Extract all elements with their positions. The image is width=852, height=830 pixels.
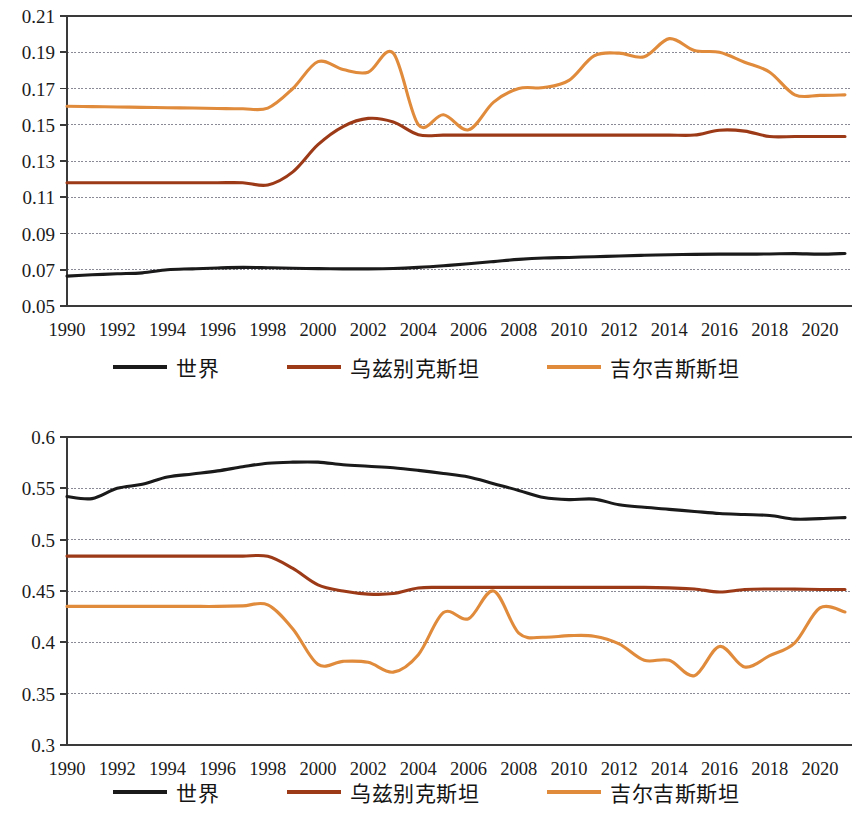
x-tick-label: 1998 xyxy=(249,759,286,775)
x-tick-label: 2002 xyxy=(350,759,387,775)
legend-swatch-kyrgyzstan xyxy=(547,365,601,369)
legend-swatch-uzbekistan xyxy=(287,365,341,369)
x-tick-label: 2008 xyxy=(500,320,537,340)
x-tick-label: 1994 xyxy=(149,759,186,775)
legend-label-world: 世界 xyxy=(176,777,219,807)
legend-label-uzbekistan: 乌兹别克斯坦 xyxy=(350,777,479,807)
y-tick-label: 0.21 xyxy=(22,6,55,27)
x-tick-label: 2018 xyxy=(751,320,788,340)
y-tick-label: 0.13 xyxy=(22,151,55,172)
y-tick-label: 0.55 xyxy=(22,478,55,499)
legend-label-world: 世界 xyxy=(176,352,219,382)
chart-bottom-ytick-labels: 0.30.350.40.450.50.550.6 xyxy=(22,427,56,756)
chart-top-legend: 世界 乌兹别克斯坦 吉尔吉斯斯坦 xyxy=(0,352,852,382)
x-tick-label: 2004 xyxy=(400,320,437,340)
legend-label-uzbekistan: 乌兹别克斯坦 xyxy=(350,352,479,382)
series-line xyxy=(67,253,845,276)
legend-item-world[interactable]: 世界 xyxy=(113,777,219,807)
chart-bottom-legend: 世界 乌兹别克斯坦 吉尔吉斯斯坦 xyxy=(0,777,852,807)
chart-bottom-xtick-labels: 1990199219941996199820002002200420062008… xyxy=(49,759,839,775)
x-tick-label: 2014 xyxy=(651,320,688,340)
x-tick-label: 1992 xyxy=(99,759,136,775)
x-tick-label: 2012 xyxy=(601,759,638,775)
y-tick-label: 0.5 xyxy=(31,530,55,551)
y-tick-label: 0.07 xyxy=(22,260,55,281)
y-tick-label: 0.45 xyxy=(22,581,55,602)
y-tick-label: 0.05 xyxy=(22,296,55,317)
chart-bottom: 0.30.350.40.450.50.550.6 199019921994199… xyxy=(0,415,852,830)
x-tick-label: 2008 xyxy=(500,759,537,775)
series-line xyxy=(67,555,845,594)
chart-top: 0.050.070.090.110.130.150.170.190.21 199… xyxy=(0,0,852,415)
x-tick-label: 2000 xyxy=(299,759,336,775)
legend-label-kyrgyzstan: 吉尔吉斯斯坦 xyxy=(610,352,739,382)
x-tick-label: 1992 xyxy=(99,320,136,340)
x-tick-label: 1998 xyxy=(249,320,286,340)
x-tick-label: 2004 xyxy=(400,759,437,775)
x-tick-label: 2010 xyxy=(550,320,587,340)
legend-swatch-uzbekistan xyxy=(287,790,341,794)
legend-swatch-world xyxy=(113,365,167,369)
x-tick-label: 2018 xyxy=(751,759,788,775)
legend-swatch-world xyxy=(113,790,167,794)
chart-top-gridlines xyxy=(67,16,852,270)
x-tick-label: 2010 xyxy=(550,759,587,775)
x-tick-label: 2016 xyxy=(701,759,738,775)
x-tick-label: 2002 xyxy=(350,320,387,340)
chart-top-series xyxy=(67,39,845,277)
y-tick-label: 0.35 xyxy=(22,684,55,705)
y-tick-label: 0.09 xyxy=(22,224,55,245)
x-tick-label: 2000 xyxy=(299,320,336,340)
x-tick-label: 2016 xyxy=(701,320,738,340)
y-tick-label: 0.19 xyxy=(22,42,55,63)
y-tick-label: 0.6 xyxy=(31,427,55,448)
x-tick-label: 1996 xyxy=(199,759,236,775)
legend-item-uzbekistan[interactable]: 乌兹别克斯坦 xyxy=(287,352,479,382)
y-tick-label: 0.15 xyxy=(22,115,55,136)
chart-bottom-series xyxy=(67,462,845,676)
x-tick-label: 2020 xyxy=(801,320,838,340)
legend-swatch-kyrgyzstan xyxy=(547,790,601,794)
legend-item-kyrgyzstan[interactable]: 吉尔吉斯斯坦 xyxy=(547,352,739,382)
x-tick-label: 2006 xyxy=(450,759,487,775)
series-line xyxy=(67,118,845,185)
x-tick-label: 2012 xyxy=(601,320,638,340)
series-line xyxy=(67,591,845,676)
chart-top-svg: 0.050.070.090.110.130.150.170.190.21 199… xyxy=(0,0,852,350)
x-tick-label: 1996 xyxy=(199,320,236,340)
series-line xyxy=(67,462,845,519)
y-tick-label: 0.17 xyxy=(22,79,55,100)
x-tick-label: 1990 xyxy=(49,320,86,340)
x-tick-label: 2006 xyxy=(450,320,487,340)
charts-page: 0.050.070.090.110.130.150.170.190.21 199… xyxy=(0,0,852,830)
legend-label-kyrgyzstan: 吉尔吉斯斯坦 xyxy=(610,777,739,807)
legend-item-uzbekistan[interactable]: 乌兹别克斯坦 xyxy=(287,777,479,807)
legend-item-world[interactable]: 世界 xyxy=(113,352,219,382)
y-tick-label: 0.4 xyxy=(31,632,55,653)
x-tick-label: 1994 xyxy=(149,320,186,340)
y-tick-label: 0.11 xyxy=(22,187,55,208)
legend-item-kyrgyzstan[interactable]: 吉尔吉斯斯坦 xyxy=(547,777,739,807)
y-tick-label: 0.3 xyxy=(31,735,55,756)
x-tick-label: 2014 xyxy=(651,759,688,775)
chart-bottom-svg: 0.30.350.40.450.50.550.6 199019921994199… xyxy=(0,415,852,775)
chart-top-ytick-labels: 0.050.070.090.110.130.150.170.190.21 xyxy=(22,6,55,317)
chart-top-xtick-labels: 1990199219941996199820002002200420062008… xyxy=(49,320,839,340)
x-tick-label: 2020 xyxy=(801,759,838,775)
x-tick-label: 1990 xyxy=(49,759,86,775)
